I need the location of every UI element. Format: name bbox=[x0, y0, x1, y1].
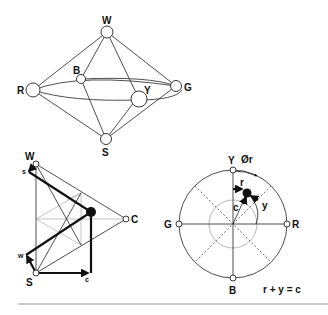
label-c: c bbox=[233, 202, 239, 213]
label-Y: Y bbox=[144, 85, 151, 96]
label-B: B bbox=[229, 285, 236, 296]
equation: r + y = c bbox=[263, 284, 301, 295]
label-Y: Y bbox=[228, 155, 235, 166]
label-R: R bbox=[17, 85, 25, 96]
label-C: C bbox=[131, 214, 138, 225]
octahedron-diagram: W R B Y G S bbox=[17, 15, 192, 158]
label-r: r bbox=[240, 177, 244, 188]
label-W: W bbox=[102, 15, 112, 26]
label-y: y bbox=[262, 200, 268, 211]
label-S: S bbox=[26, 277, 33, 288]
label-G: G bbox=[184, 82, 192, 93]
label-G: G bbox=[164, 219, 172, 230]
label-R: R bbox=[292, 219, 300, 230]
label-B: B bbox=[73, 65, 80, 76]
label-s: s bbox=[22, 168, 26, 175]
triangle-diagram: W S C s w c bbox=[17, 151, 138, 288]
label-W: W bbox=[25, 151, 35, 162]
label-w: w bbox=[17, 252, 24, 259]
figure-canvas: W R B Y G S W S C s w c bbox=[0, 0, 328, 315]
hue-circle-diagram: Y Ør r y c G R B r + y = c bbox=[164, 154, 301, 296]
label-phi-r: Ør bbox=[241, 154, 253, 165]
label-S: S bbox=[102, 147, 109, 158]
label-c: c bbox=[85, 276, 89, 283]
